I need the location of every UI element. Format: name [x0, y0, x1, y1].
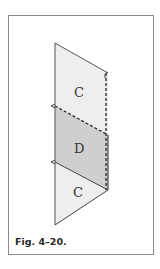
fold-diagram: C D C — [0, 0, 160, 269]
label-d: D — [74, 141, 84, 156]
label-c-bottom: C — [73, 185, 83, 200]
figure-caption: Fig. 4–20. — [15, 236, 67, 247]
label-c-top: C — [74, 85, 84, 100]
